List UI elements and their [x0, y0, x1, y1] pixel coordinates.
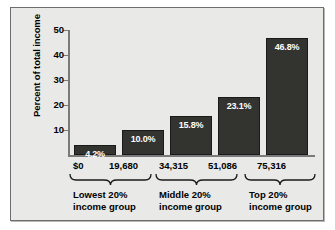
y-tick-label-40: 40	[53, 49, 64, 60]
plot-area: 10 20 30 40 50 4.2% 10.	[68, 30, 315, 155]
group-brace-0	[69, 174, 152, 185]
group-label-2-line2: income group	[249, 201, 312, 213]
group-label-2: Top 20% income group	[249, 189, 312, 212]
x-tick-label-0: $0	[73, 160, 84, 171]
group-label-1-line1: Middle 20%	[159, 189, 222, 201]
y-tick-label-30: 30	[53, 74, 64, 85]
group-label-0-line1: Lowest 20%	[73, 189, 136, 201]
y-axis-label: Percent of total income	[31, 1, 42, 131]
group-brace-2	[244, 174, 316, 185]
bar-1: 10.0%	[122, 130, 164, 155]
bar-value-label-1: 10.0%	[123, 134, 163, 144]
bar-value-label-2: 15.8%	[171, 120, 211, 130]
x-tick-label-3: 51,086	[208, 160, 237, 171]
y-axis-spine	[68, 30, 70, 155]
group-label-1-line2: income group	[159, 201, 222, 213]
group-label-0: Lowest 20% income group	[73, 189, 136, 212]
x-tick-label-4: 75,316	[257, 160, 286, 171]
x-tick-label-2: 34,315	[159, 160, 188, 171]
y-tick-label-50: 50	[53, 24, 64, 35]
y-tick-label-10: 10	[53, 124, 64, 135]
bar-4: 46.8%	[266, 38, 308, 155]
bar-value-label-3: 23.1%	[219, 101, 259, 111]
bar-2: 15.8%	[170, 116, 212, 156]
x-tick-label-1: 19,680	[109, 160, 138, 171]
group-label-1: Middle 20% income group	[159, 189, 222, 212]
bar-3: 23.1%	[218, 97, 260, 155]
bar-value-label-0: 4.2%	[75, 149, 115, 159]
bar-value-label-4: 46.8%	[267, 42, 307, 52]
group-brace-1	[155, 174, 238, 185]
group-label-2-line1: Top 20%	[249, 189, 312, 201]
bar-0: 4.2%	[74, 145, 116, 156]
chart-frame: Percent of total income 10 20 30 40	[10, 7, 324, 221]
group-label-0-line2: income group	[73, 201, 136, 213]
y-tick-label-20: 20	[53, 99, 64, 110]
chart-figure: Percent of total income 10 20 30 40	[0, 0, 335, 230]
